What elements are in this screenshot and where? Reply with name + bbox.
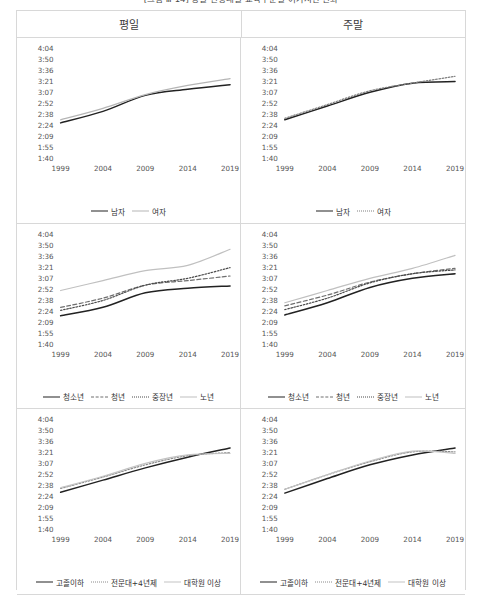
legend-label: 중장년 bbox=[377, 391, 398, 402]
chart-cell-weekday-gender: 4:043:503:363:213:072:522:382:242:091:55… bbox=[17, 38, 241, 223]
legend-item: 대학원 이상 bbox=[388, 577, 445, 588]
y-axis-tick-label: 3:50 bbox=[262, 55, 279, 64]
legend-line-swatch bbox=[132, 208, 149, 215]
x-axis-tick-label: 2019 bbox=[221, 349, 240, 358]
y-axis-tick-label: 3:07 bbox=[262, 273, 278, 282]
y-axis-tick-label: 3:21 bbox=[262, 262, 278, 271]
y-axis-tick-label: 2:52 bbox=[38, 470, 54, 479]
legend-label: 여자 bbox=[377, 206, 391, 217]
y-axis-tick-label: 2:38 bbox=[38, 481, 54, 490]
chart-cell-weekend-age: 4:043:503:363:213:072:522:382:242:091:55… bbox=[241, 224, 465, 409]
y-axis-tick-label: 3:36 bbox=[262, 437, 279, 446]
figure-sheet: [그림 Ⅲ-14] 성별·연령대별·교육수준별 여가시간 변화 평일 주말 4:… bbox=[0, 0, 482, 598]
legend-label: 고졸이하 bbox=[56, 577, 84, 588]
series-line bbox=[61, 249, 230, 290]
legend-label: 고졸이하 bbox=[280, 577, 308, 588]
x-axis-tick-label: 2009 bbox=[361, 349, 380, 358]
y-axis-tick-label: 3:21 bbox=[262, 448, 278, 457]
x-axis-tick-label: 2014 bbox=[403, 535, 422, 544]
legend-item: 남자 bbox=[91, 206, 125, 217]
legend-label: 청소년 bbox=[288, 391, 309, 402]
y-axis-tick-label: 1:55 bbox=[38, 514, 54, 523]
y-axis-tick-label: 1:55 bbox=[38, 143, 54, 152]
series-line bbox=[285, 448, 455, 493]
x-axis-tick-label: 1999 bbox=[276, 535, 295, 544]
legend-item: 여자 bbox=[132, 206, 166, 217]
y-axis-tick-label: 2:24 bbox=[262, 306, 279, 315]
x-axis-tick-label: 2004 bbox=[318, 164, 337, 173]
legend-line-swatch bbox=[91, 579, 108, 586]
legend-item: 전문대+4년제 bbox=[91, 577, 157, 588]
y-axis-tick-label: 2:52 bbox=[38, 99, 54, 108]
series-line bbox=[61, 276, 230, 307]
y-axis-tick-label: 3:21 bbox=[38, 448, 54, 457]
x-axis-tick-label: 2004 bbox=[318, 349, 337, 358]
y-axis-tick-label: 2:52 bbox=[262, 99, 278, 108]
series-line bbox=[61, 448, 230, 492]
y-axis-tick-label: 2:38 bbox=[262, 481, 279, 490]
x-axis-tick-label: 2014 bbox=[403, 349, 422, 358]
legend-line-swatch bbox=[357, 393, 374, 400]
legend-line-swatch bbox=[316, 393, 333, 400]
y-axis-tick-label: 2:09 bbox=[38, 132, 54, 141]
y-axis-tick-label: 3:07 bbox=[38, 459, 54, 468]
column-header-row: 평일 주말 bbox=[17, 11, 465, 38]
legend-item: 중장년 bbox=[357, 391, 398, 402]
y-axis-tick-label: 3:36 bbox=[38, 251, 54, 260]
chart-legend: 고졸이하전문대+4년제대학원 이상 bbox=[17, 577, 240, 588]
series-line bbox=[61, 85, 230, 123]
y-axis-tick-label: 3:21 bbox=[38, 77, 54, 86]
legend-item: 청년 bbox=[316, 391, 350, 402]
series-line bbox=[285, 82, 455, 120]
y-axis-tick-label: 2:38 bbox=[38, 295, 54, 304]
y-axis-tick-label: 1:40 bbox=[38, 339, 54, 348]
x-axis-tick-label: 1999 bbox=[52, 164, 71, 173]
y-axis-tick-label: 1:55 bbox=[262, 143, 278, 152]
x-axis-tick-label: 2019 bbox=[446, 535, 465, 544]
y-axis-tick-label: 2:38 bbox=[262, 295, 279, 304]
y-axis-tick-label: 1:40 bbox=[262, 154, 279, 163]
column-header-weekend: 주말 bbox=[242, 11, 466, 37]
x-axis-tick-label: 2009 bbox=[136, 535, 155, 544]
y-axis-tick-label: 3:36 bbox=[38, 437, 54, 446]
legend-item: 전문대+4년제 bbox=[315, 577, 381, 588]
chart-panel: 4:043:503:363:213:072:522:382:242:091:55… bbox=[17, 409, 240, 561]
legend-label: 여자 bbox=[152, 206, 166, 217]
y-axis-tick-label: 2:24 bbox=[38, 492, 54, 501]
x-axis-tick-label: 2014 bbox=[179, 349, 198, 358]
y-axis-tick-label: 1:40 bbox=[262, 339, 279, 348]
x-axis-tick-label: 1999 bbox=[52, 535, 71, 544]
legend-line-swatch bbox=[180, 393, 197, 400]
legend-label: 노년 bbox=[425, 391, 439, 402]
chart-cell-weekend-education: 4:043:503:363:213:072:522:382:242:091:55… bbox=[241, 409, 465, 594]
legend-item: 고졸이하 bbox=[36, 577, 84, 588]
y-axis-tick-label: 2:24 bbox=[38, 121, 54, 130]
x-axis-tick-label: 2004 bbox=[94, 349, 113, 358]
chart-legend: 남자여자 bbox=[241, 206, 465, 217]
x-axis-tick-label: 2014 bbox=[179, 164, 198, 173]
y-axis-tick-label: 3:50 bbox=[38, 55, 54, 64]
chart-panel: 4:043:503:363:213:072:522:382:242:091:55… bbox=[241, 224, 465, 376]
y-axis-tick-label: 2:24 bbox=[38, 306, 54, 315]
legend-line-swatch bbox=[43, 393, 60, 400]
y-axis-tick-label: 3:07 bbox=[262, 88, 278, 97]
legend-item: 중장년 bbox=[132, 391, 173, 402]
series-line bbox=[285, 273, 455, 314]
y-axis-tick-label: 2:09 bbox=[262, 503, 279, 512]
legend-line-swatch bbox=[132, 393, 149, 400]
legend-line-swatch bbox=[388, 579, 405, 586]
column-header-weekday: 평일 bbox=[17, 11, 242, 37]
legend-label: 전문대+4년제 bbox=[111, 577, 157, 588]
legend-line-swatch bbox=[268, 393, 285, 400]
legend-label: 노년 bbox=[200, 391, 214, 402]
chart-legend: 청소년청년중장년노년 bbox=[17, 391, 240, 402]
x-axis-tick-label: 2004 bbox=[318, 535, 337, 544]
chart-row-gender: 4:043:503:363:213:072:522:382:242:091:55… bbox=[17, 38, 465, 224]
legend-label: 중장년 bbox=[152, 391, 173, 402]
y-axis-tick-label: 2:38 bbox=[262, 110, 279, 119]
y-axis-tick-label: 1:40 bbox=[262, 525, 279, 534]
series-line bbox=[285, 451, 455, 489]
y-axis-tick-label: 1:55 bbox=[38, 328, 54, 337]
legend-label: 남자 bbox=[111, 206, 125, 217]
legend-label: 청소년 bbox=[63, 391, 84, 402]
